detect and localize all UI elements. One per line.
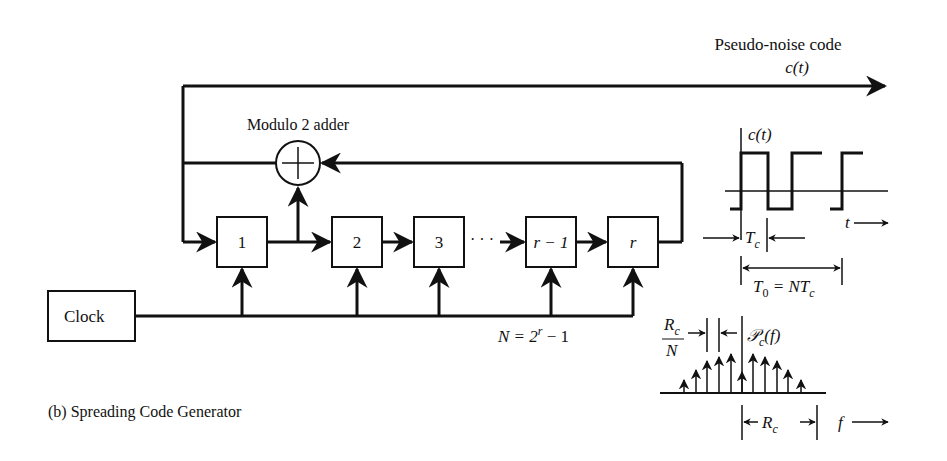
period-label: T0 = NTc (753, 277, 815, 300)
register-3-label: 3 (435, 233, 444, 252)
adder-label: Modulo 2 adder (247, 116, 350, 133)
register-2-label: 2 (353, 233, 362, 252)
spacing-denominator: N (665, 341, 679, 360)
spreading-code-generator-diagram: Modulo 2 adder 1 2 3 r − 1 r · · · Clock… (0, 0, 947, 461)
modulo-2-adder (276, 141, 320, 185)
register-r-minus-1-label: r − 1 (533, 233, 568, 252)
pn-waveform (730, 153, 822, 209)
spacing-numerator: Rc (663, 315, 680, 338)
waveform-ylabel: c(t) (748, 125, 772, 144)
waveform-plot (703, 128, 888, 285)
clock-label: Clock (64, 307, 105, 326)
bandwidth-label: Rc (761, 413, 778, 436)
register-1-label: 1 (238, 233, 247, 252)
register-r-label: r (630, 233, 637, 252)
ellipsis-dots: · · · (470, 231, 494, 248)
chip-duration-label: Tc (745, 228, 760, 251)
pn-code-title: Pseudo-noise code (714, 35, 841, 54)
sequence-length-label: N = 2r − 1 (497, 324, 569, 346)
output-signal-label: c(t) (785, 58, 809, 77)
waveform-xlabel: t (845, 213, 851, 232)
psd-label: 𝒫c(f) (747, 326, 781, 349)
spectrum-xlabel: f (838, 413, 845, 432)
figure-caption: (b) Spreading Code Generator (48, 403, 242, 421)
